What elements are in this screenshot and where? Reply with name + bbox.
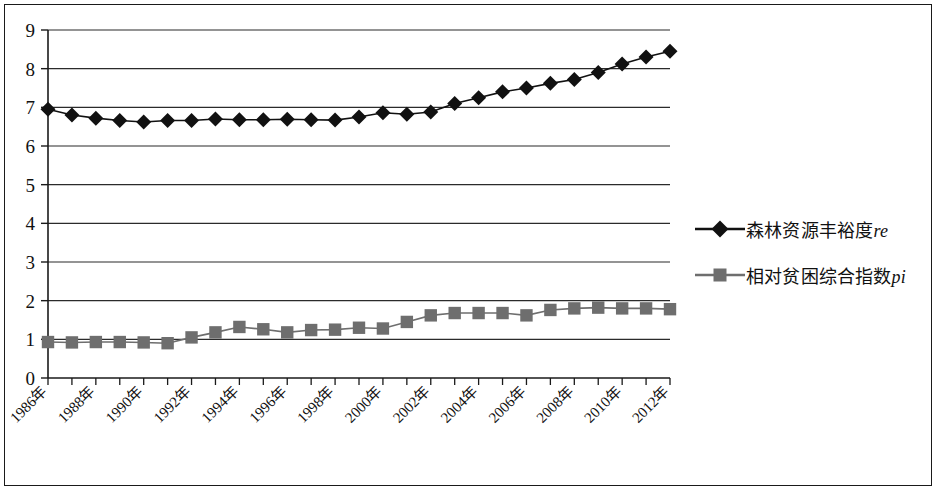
data-point-marker	[90, 336, 102, 348]
y-axis-tick-label: 0	[26, 368, 36, 389]
chart-figure: 01234567891986年1988年1990年1992年1994年1996年…	[0, 0, 937, 491]
square-marker-icon	[694, 264, 746, 286]
data-point-marker	[42, 336, 54, 348]
data-point-marker	[425, 309, 437, 321]
data-point-marker	[640, 302, 652, 314]
legend-item-re: 森林资源丰裕度re	[694, 206, 934, 252]
legend-label-pi-symbol: pi	[892, 267, 906, 287]
data-point-marker	[353, 322, 365, 334]
series-re	[41, 44, 678, 130]
data-point-marker	[280, 112, 295, 127]
data-point-marker	[543, 76, 558, 91]
data-point-marker	[591, 65, 606, 80]
x-axis-tick-label: 2002年	[390, 383, 433, 426]
data-point-marker	[185, 331, 197, 343]
x-axis-tick-label: 2006年	[485, 383, 528, 426]
data-point-marker	[305, 324, 317, 336]
data-point-marker	[401, 316, 413, 328]
x-axis-tick-label: 1990年	[103, 383, 146, 426]
y-axis-tick-label: 5	[26, 175, 36, 196]
y-axis-tick-label: 2	[26, 291, 36, 312]
diamond-marker-icon	[694, 218, 746, 240]
data-point-marker	[184, 113, 199, 128]
x-axis-tick-label: 2008年	[533, 383, 576, 426]
x-axis-tick-label: 1998年	[294, 383, 337, 426]
y-axis-tick-label: 9	[26, 20, 36, 41]
x-axis-tick-label: 2004年	[438, 383, 481, 426]
data-point-marker	[448, 307, 460, 319]
data-point-marker	[352, 110, 367, 125]
data-point-marker	[615, 57, 630, 72]
data-point-marker	[377, 322, 389, 334]
legend-label-pi: 相对贫困综合指数pi	[746, 262, 906, 288]
data-point-marker	[160, 113, 175, 128]
chart-legend: 森林资源丰裕度re 相对贫困综合指数pi	[694, 206, 934, 298]
data-point-marker	[112, 113, 127, 128]
y-axis-tick-label: 6	[26, 136, 36, 157]
data-point-marker	[257, 323, 269, 335]
data-point-marker	[664, 303, 676, 315]
data-point-marker	[328, 113, 343, 128]
y-axis-tick-label: 7	[26, 97, 36, 118]
data-point-marker	[208, 111, 223, 126]
data-point-marker	[64, 108, 79, 123]
data-point-marker	[161, 337, 173, 349]
data-point-marker	[137, 336, 149, 348]
data-point-marker	[568, 302, 580, 314]
data-point-marker	[567, 72, 582, 87]
data-point-marker	[544, 304, 556, 316]
x-axis-tick-label: 1994年	[198, 383, 241, 426]
data-point-marker	[136, 115, 151, 130]
x-axis-tick-label: 1996年	[246, 383, 289, 426]
x-axis-tick-label: 1986年	[7, 383, 50, 426]
legend-label-re: 森林资源丰裕度re	[746, 216, 888, 242]
data-point-marker	[519, 81, 534, 96]
data-point-marker	[472, 307, 484, 319]
legend-item-pi: 相对贫困综合指数pi	[694, 252, 934, 298]
data-point-marker	[471, 90, 486, 105]
data-point-marker	[616, 302, 628, 314]
data-point-marker	[520, 309, 532, 321]
data-point-marker	[663, 44, 678, 59]
data-point-marker	[496, 307, 508, 319]
data-point-marker	[329, 323, 341, 335]
data-point-marker	[114, 336, 126, 348]
x-axis-tick-label: 1988年	[55, 383, 98, 426]
data-point-marker	[495, 84, 510, 99]
y-axis-tick-label: 3	[26, 252, 36, 273]
x-axis-tick-label: 2010年	[581, 383, 624, 426]
data-point-marker	[66, 336, 78, 348]
data-point-marker	[232, 112, 247, 127]
data-point-marker	[592, 301, 604, 313]
data-point-marker	[256, 112, 271, 127]
x-axis-tick-label: 2000年	[342, 383, 385, 426]
series-pi	[42, 301, 676, 349]
y-axis-tick-label: 8	[26, 59, 36, 80]
data-point-marker	[233, 321, 245, 333]
data-point-marker	[88, 111, 103, 126]
y-axis-tick-label: 4	[26, 213, 36, 234]
data-point-marker	[281, 326, 293, 338]
x-axis-tick-label: 2012年	[629, 383, 672, 426]
data-point-marker	[304, 112, 319, 127]
legend-label-re-text: 森林资源丰裕度	[746, 221, 873, 241]
data-point-marker	[423, 104, 438, 119]
legend-label-pi-text: 相对贫困综合指数	[746, 267, 892, 287]
data-point-marker	[41, 102, 56, 117]
data-point-marker	[639, 50, 654, 65]
x-axis-tick-label: 1992年	[151, 383, 194, 426]
data-point-marker	[209, 326, 221, 338]
data-point-marker	[447, 96, 462, 111]
y-axis-tick-label: 1	[26, 329, 36, 350]
data-point-marker	[399, 107, 414, 122]
legend-label-re-symbol: re	[873, 221, 888, 241]
